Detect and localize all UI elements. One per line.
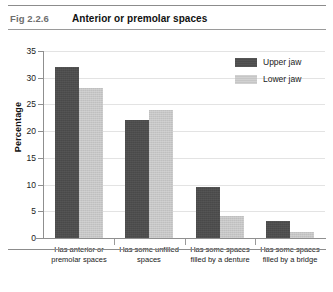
- category-label-line: premolar spaces: [44, 255, 114, 265]
- y-tick-label: 35: [0, 46, 36, 56]
- legend-swatch-upper-jaw: [235, 58, 257, 67]
- category-label: Has anterior orpremolar spaces: [44, 245, 114, 265]
- category-label-line: Has some spaces: [185, 245, 255, 255]
- y-tick-label: 0: [0, 233, 36, 243]
- category-label-line: Has some spaces: [255, 245, 325, 255]
- figure-container: Fig 2.2.6 Anterior or premolar spaces 05…: [0, 0, 333, 292]
- category-label-line: filled by a denture: [185, 255, 255, 265]
- y-axis-label: Percentage: [13, 92, 23, 162]
- category-label-line: Has some unfilled: [114, 245, 184, 255]
- legend-swatch-lower-jaw: [235, 75, 257, 84]
- legend-label-upper-jaw: Upper jaw: [263, 57, 301, 67]
- category-label: Has some unfilledspaces: [114, 245, 184, 265]
- y-tick-label: 10: [0, 180, 36, 190]
- figure-rule-bottom: [8, 249, 326, 250]
- bar-lower-jaw: [220, 216, 244, 238]
- x-axis-line: [36, 238, 326, 239]
- category-label: Has some spacesfilled by a bridge: [255, 245, 325, 265]
- category-label-line: filled by a bridge: [255, 255, 325, 265]
- header-rule-top: [8, 5, 326, 6]
- figure-header: Fig 2.2.6 Anterior or premolar spaces: [10, 9, 326, 27]
- bar-upper-jaw: [125, 120, 149, 238]
- header-rule-bottom: [8, 29, 326, 30]
- figure-number: Fig 2.2.6: [10, 13, 72, 24]
- chart-legend: Upper jaw Lower jaw: [235, 55, 329, 89]
- legend-item-lower-jaw: Lower jaw: [235, 72, 329, 86]
- figure-title: Anterior or premolar spaces: [72, 13, 207, 24]
- legend-label-lower-jaw: Lower jaw: [263, 74, 301, 84]
- category-label: Has some spacesfilled by a denture: [185, 245, 255, 265]
- bar-chart: 05101520253035 Percentage Has anterior o…: [0, 34, 333, 292]
- y-tick-label: 30: [0, 73, 36, 83]
- gridline: [44, 51, 325, 52]
- bar-lower-jaw: [79, 88, 103, 238]
- y-axis-line: [43, 51, 44, 239]
- bar-lower-jaw: [290, 232, 314, 238]
- bar-upper-jaw: [266, 221, 290, 238]
- y-tick-label: 5: [0, 206, 36, 216]
- bar-lower-jaw: [149, 110, 173, 238]
- bar-upper-jaw: [55, 67, 79, 238]
- category-label-line: Has anterior or: [44, 245, 114, 255]
- bar-upper-jaw: [196, 187, 220, 238]
- legend-item-upper-jaw: Upper jaw: [235, 55, 329, 69]
- category-label-line: spaces: [114, 255, 184, 265]
